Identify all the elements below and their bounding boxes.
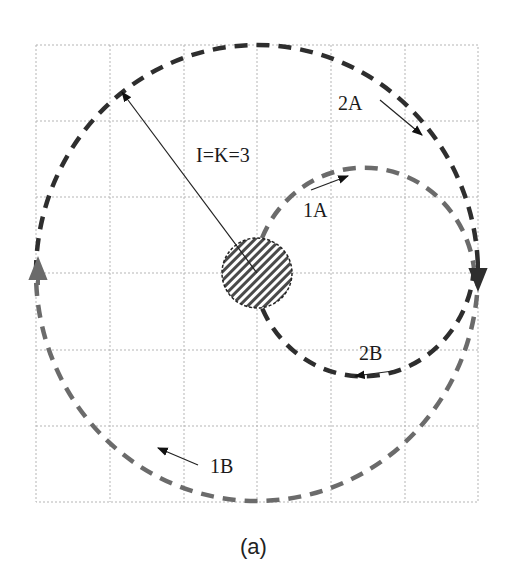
arrow-1a-icon bbox=[311, 176, 348, 190]
label-1b: 1B bbox=[210, 455, 233, 477]
path-1a-inner-arc bbox=[262, 168, 474, 268]
label-1a: 1A bbox=[303, 199, 328, 221]
label-2a: 2A bbox=[338, 92, 363, 114]
radius-arrow bbox=[122, 92, 257, 273]
radius-label: I=K=3 bbox=[196, 144, 250, 166]
label-2b: 2B bbox=[359, 342, 382, 364]
arrow-1b-icon bbox=[158, 448, 198, 465]
orbit-diagram: I=K=3 2A 1A 2B 1B (a) bbox=[0, 0, 506, 585]
figure-caption: (a) bbox=[240, 534, 267, 559]
